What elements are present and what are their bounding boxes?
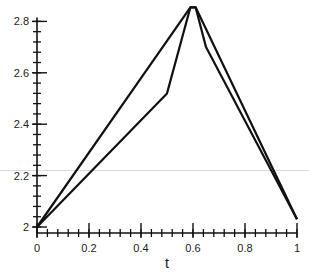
axes [32,17,297,238]
y-tick-label: 2.8 [14,15,29,27]
x-tick-label: 0.6 [185,242,200,254]
x-tick-label: 0 [34,242,40,254]
x-tick-label: 0.8 [237,242,252,254]
x-tick-label: 1 [294,242,300,254]
y-tick-label: 2.6 [14,67,29,79]
series-line-path-1 [37,7,297,227]
x-tick-label: 0.4 [133,242,148,254]
series-group [37,7,297,227]
y-tick-label: 2.2 [14,170,29,182]
x-tick-label: 0.2 [81,242,96,254]
y-tick-label: 2.4 [14,118,29,130]
y-tick-label: 2 [23,221,29,233]
x-axis-title: t [165,255,169,271]
chart: 22.22.42.62.800.20.40.60.81 t [0,0,309,280]
